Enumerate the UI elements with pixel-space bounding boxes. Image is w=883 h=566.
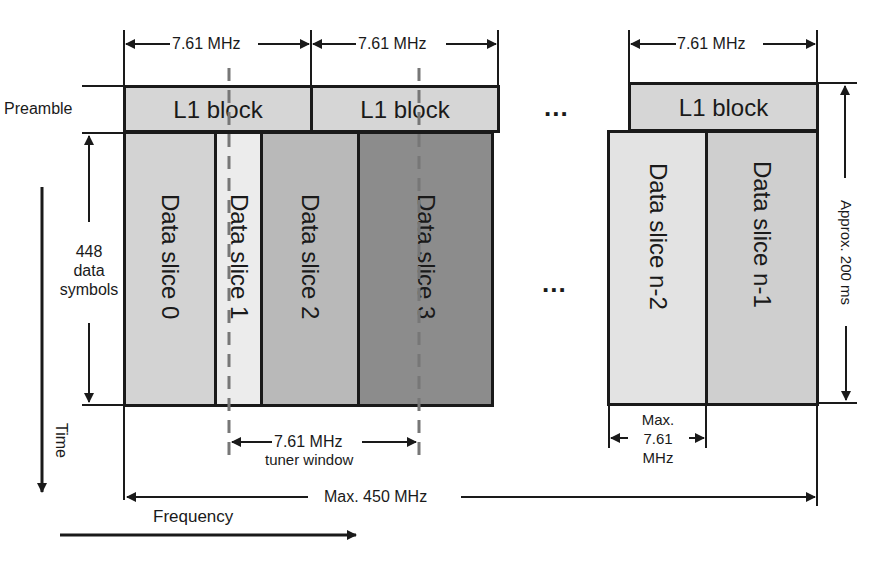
- tuner-window-label: tuner window: [265, 451, 353, 469]
- max-slice-width-label: Max. 7.61 MHz: [628, 410, 688, 467]
- max-total-label: Max. 450 MHz: [324, 488, 427, 506]
- frequency-axis-label: Frequency: [153, 508, 233, 526]
- tuner-window-value: 7.61 MHz: [274, 433, 342, 451]
- tuner-window-markers: [0, 0, 883, 566]
- duration-label: Approx. 200 ms: [835, 183, 857, 323]
- time-axis-label: Time: [50, 414, 72, 466]
